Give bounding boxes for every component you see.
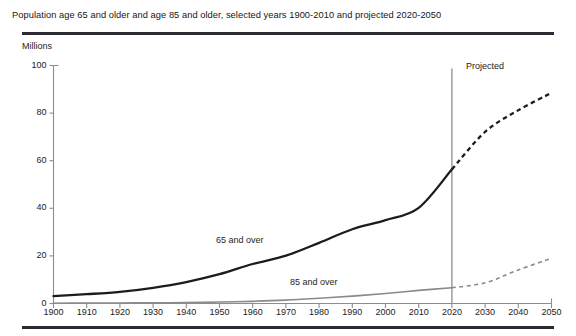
chart-plot-area	[0, 0, 576, 336]
series-line-actual-85-and-over	[54, 288, 452, 303]
series-line-projected-65-and-over	[452, 93, 552, 169]
chart-figure: Population age 65 and older and age 85 a…	[0, 0, 576, 336]
series-line-actual-65-and-over	[54, 169, 452, 296]
footer-rule	[22, 326, 554, 329]
series-line-projected-85-and-over	[452, 258, 552, 288]
